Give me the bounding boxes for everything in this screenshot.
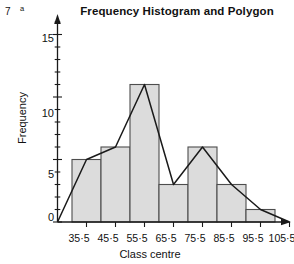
frequency-histogram-figure: 7 a Frequency Histogram and Polygon Freq…: [0, 0, 294, 264]
histogram-bar: [246, 210, 275, 223]
histogram-bar: [101, 147, 130, 222]
histogram-bar: [72, 160, 101, 223]
histogram-bar: [159, 185, 188, 223]
x-axis-ticks: [87, 222, 290, 227]
chart-plot-area: [0, 0, 294, 264]
histogram-bar: [188, 147, 217, 222]
histogram-bar: [217, 185, 246, 223]
